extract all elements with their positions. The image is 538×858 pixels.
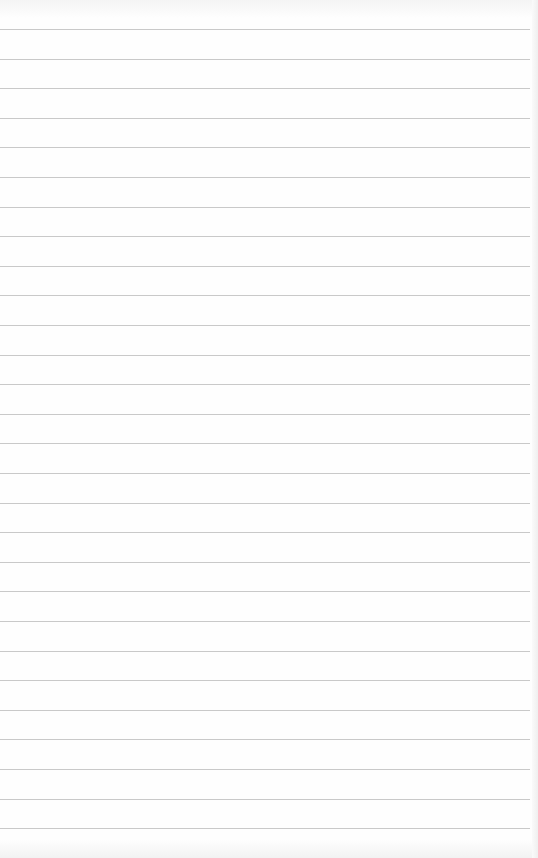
ruled-line — [0, 295, 530, 296]
ruled-line — [0, 414, 530, 415]
ruled-line — [0, 29, 530, 30]
ruled-line — [0, 828, 530, 829]
ruled-line — [0, 591, 530, 592]
ruled-line — [0, 266, 530, 267]
ruled-line — [0, 443, 530, 444]
lined-paper — [0, 0, 538, 858]
ruled-line — [0, 118, 530, 119]
ruled-line — [0, 236, 530, 237]
ruled-line — [0, 680, 530, 681]
ruled-line — [0, 799, 530, 800]
ruled-line — [0, 88, 530, 89]
ruled-line — [0, 739, 530, 740]
ruled-line — [0, 532, 530, 533]
ruled-line — [0, 59, 530, 60]
ruled-line — [0, 177, 530, 178]
ruled-line — [0, 503, 530, 504]
ruled-line — [0, 473, 530, 474]
ruled-line — [0, 207, 530, 208]
ruled-line — [0, 562, 530, 563]
ruled-line — [0, 147, 530, 148]
ruled-line — [0, 710, 530, 711]
ruled-line — [0, 651, 530, 652]
ruled-line — [0, 384, 530, 385]
paper-edge — [532, 0, 538, 858]
ruled-line — [0, 325, 530, 326]
ruled-line — [0, 769, 530, 770]
ruled-line — [0, 621, 530, 622]
ruled-line — [0, 355, 530, 356]
